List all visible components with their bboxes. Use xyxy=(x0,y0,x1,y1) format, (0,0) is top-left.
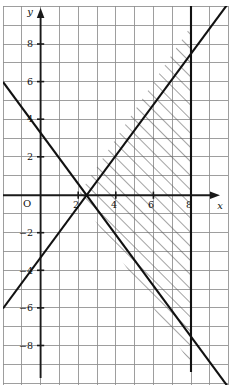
y-tick-label-neg8: −8 xyxy=(19,340,33,351)
y-axis-label: y xyxy=(26,6,33,17)
x-tick-label-8: 8 xyxy=(186,199,192,210)
x-tick-label-2: 2 xyxy=(73,199,79,210)
y-tick-label-4: 4 xyxy=(27,113,33,124)
origin-label: O xyxy=(23,198,31,209)
x-axis-label: x xyxy=(217,200,223,211)
y-tick-label-neg2: −2 xyxy=(19,227,33,238)
y-tick-label-neg6: −6 xyxy=(19,302,33,313)
graph-canvas: y x O 2 4 6 8 8 6 4 2 −2 −4 −6 −8 xyxy=(0,0,233,388)
graph-figure: y x O 2 4 6 8 8 6 4 2 −2 −4 −6 −8 xyxy=(0,0,233,388)
y-tick-label-8: 8 xyxy=(27,38,33,49)
y-tick-label-6: 6 xyxy=(27,76,33,87)
y-tick-label-2: 2 xyxy=(27,151,33,162)
x-tick-label-6: 6 xyxy=(148,199,154,210)
x-tick-label-4: 4 xyxy=(111,199,117,210)
y-tick-label-neg4: −4 xyxy=(19,265,33,276)
